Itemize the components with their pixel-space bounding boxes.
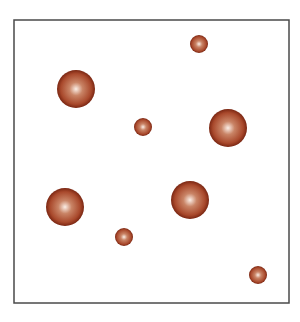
large-sphere (46, 188, 84, 226)
large-sphere (57, 70, 95, 108)
small-sphere (249, 266, 267, 284)
large-sphere (209, 109, 247, 147)
small-sphere (190, 35, 208, 53)
small-sphere (115, 228, 133, 246)
large-sphere (171, 181, 209, 219)
small-sphere (134, 118, 152, 136)
container-box (14, 20, 289, 303)
particle-diagram (0, 0, 300, 322)
